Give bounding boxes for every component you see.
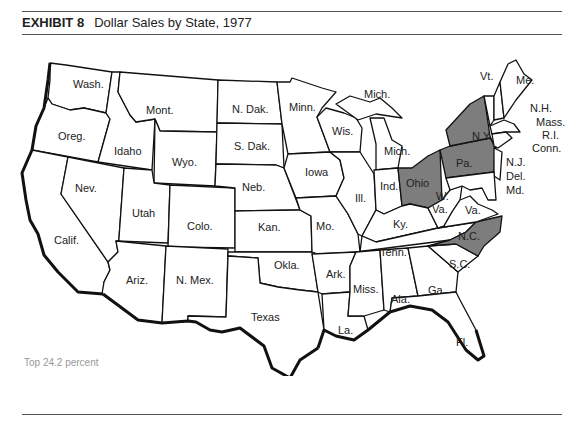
top-rule: [22, 11, 562, 12]
bottom-rule: [22, 414, 562, 415]
label-nj: N.J.: [506, 156, 526, 168]
label-wyo: Wyo.: [172, 156, 197, 168]
label-fl: Fl.: [456, 336, 468, 348]
label-sc: S.C.: [449, 258, 470, 270]
label-utah: Utah: [132, 207, 155, 219]
label-mass: Mass.: [536, 116, 565, 128]
us-states-map: Wash. Oreg. Calif. Idaho Nev. Mont. Wyo.…: [0, 36, 586, 376]
label-ky: Ky.: [393, 218, 408, 230]
label-colo: Colo.: [187, 220, 213, 232]
state-north-dakota: [217, 80, 282, 124]
state-new-jersey: [494, 148, 502, 180]
label-kan: Kan.: [258, 221, 281, 233]
label-nev: Nev.: [75, 182, 97, 194]
label-mich-up: Mich.: [364, 88, 390, 100]
label-me: Me.: [516, 74, 534, 86]
legend-text: Top 24.2 percent: [24, 357, 99, 368]
label-iowa: Iowa: [305, 166, 329, 178]
label-ohio: Ohio: [406, 177, 429, 189]
label-sdak: S. Dak.: [234, 140, 270, 152]
label-calif: Calif.: [54, 234, 79, 246]
label-nmex: N. Mex.: [176, 274, 214, 286]
label-ark: Ark.: [326, 268, 346, 280]
label-mich: Mich.: [384, 145, 410, 157]
exhibit-title: EXHIBIT 8Dollar Sales by State, 1977: [22, 15, 252, 30]
label-ny: N.Y.: [472, 130, 492, 142]
state-maine: [500, 60, 532, 118]
label-neb: Neb.: [242, 181, 265, 193]
label-minn: Minn.: [289, 101, 316, 113]
title-rule: [22, 34, 562, 35]
label-wash: Wash.: [73, 78, 104, 90]
label-conn: Conn.: [532, 142, 561, 154]
label-md: Md.: [506, 184, 524, 196]
label-la: La.: [338, 324, 353, 336]
label-ri: R.I.: [542, 129, 559, 141]
label-okla: Okla.: [274, 259, 300, 271]
label-wis: Wis.: [332, 125, 353, 137]
label-ga: Ga.: [428, 284, 446, 296]
label-nh: N.H.: [530, 102, 552, 114]
label-ariz: Ariz.: [126, 274, 148, 286]
label-texas: Texas: [251, 311, 280, 323]
label-tenn: Tenn.: [380, 246, 407, 258]
label-ind: Ind.: [380, 180, 398, 192]
label-nc: N.C.: [458, 230, 480, 242]
label-wva-2: Va.: [432, 203, 448, 215]
state-colorado: [168, 185, 235, 248]
label-va: Va.: [465, 204, 481, 216]
state-connecticut-ri: [492, 132, 512, 148]
label-wva-1: W.: [436, 190, 449, 202]
label-mo: Mo.: [316, 220, 334, 232]
label-ndak: N. Dak.: [232, 103, 269, 115]
label-mont: Mont.: [146, 104, 174, 116]
label-ill: Ill.: [355, 192, 366, 204]
label-ala: Ala.: [391, 293, 410, 305]
exhibit-label: EXHIBIT 8: [22, 15, 84, 30]
state-michigan: [370, 118, 402, 170]
label-oreg: Oreg.: [58, 130, 86, 142]
label-del: Del.: [506, 170, 526, 182]
label-idaho: Idaho: [114, 145, 142, 157]
exhibit-caption: Dollar Sales by State, 1977: [94, 15, 252, 30]
label-vt: Vt.: [480, 70, 493, 82]
label-miss: Miss.: [353, 283, 379, 295]
label-pa: Pa.: [456, 157, 473, 169]
